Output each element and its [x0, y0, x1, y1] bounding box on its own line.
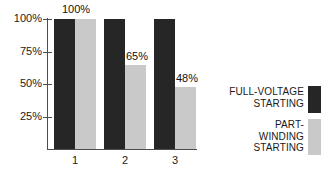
value-label-1: 100% [62, 3, 90, 15]
legend-label-full-voltage-line2: STARTING [229, 98, 304, 110]
legend-label-part-winding-line3: STARTING [254, 142, 304, 154]
x-tick-label-3: 3 [154, 154, 196, 167]
legend-item-full-voltage: FULL-VOLTAGE STARTING [205, 86, 321, 113]
legend-label-part-winding-line2: WINDING [254, 131, 304, 143]
bar-group-3: 48% 3 [154, 18, 197, 149]
bar-full-voltage-1 [54, 19, 75, 149]
y-tick-label-50: 50% [20, 77, 42, 90]
value-label-3: 48% [176, 72, 198, 84]
legend-label-full-voltage-line1: FULL-VOLTAGE [229, 86, 304, 98]
bar-part-winding-2 [125, 65, 146, 149]
bar-part-winding-1 [75, 19, 96, 149]
bar-full-voltage-3 [154, 19, 175, 149]
bar-full-voltage-2 [104, 19, 125, 149]
legend-swatch-part-winding [308, 119, 321, 155]
value-label-2: 65% [126, 50, 148, 62]
y-tick-label-75: 75% [20, 45, 42, 58]
y-tick-label-100: 100% [14, 12, 42, 25]
bar-group-1: 100% 1 [54, 18, 97, 149]
plot-area: 100% 75% 50% 25% 100% 1 65% 2 [47, 18, 197, 150]
legend-label-full-voltage: FULL-VOLTAGE STARTING [229, 86, 308, 109]
bar-group-2: 65% 2 [104, 18, 147, 149]
legend-swatch-full-voltage [308, 86, 321, 113]
x-tick-label-2: 2 [104, 154, 146, 167]
legend-label-part-winding-line1: PART- [254, 119, 304, 131]
legend-item-part-winding: PART- WINDING STARTING [205, 119, 321, 155]
x-axis-line [47, 149, 197, 150]
bar-chart: 100% 75% 50% 25% 100% 1 65% 2 [0, 0, 324, 183]
chart-legend: FULL-VOLTAGE STARTING PART- WINDING STAR… [205, 86, 321, 161]
y-tick-label-25: 25% [20, 110, 42, 123]
bar-part-winding-3 [175, 87, 196, 149]
x-tick-label-1: 1 [54, 154, 96, 167]
legend-label-part-winding: PART- WINDING STARTING [254, 119, 308, 154]
